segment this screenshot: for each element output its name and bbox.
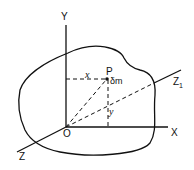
z-axis	[17, 127, 66, 152]
z1-axis-label: Z1	[173, 77, 183, 89]
op-line	[66, 80, 106, 127]
rigid-body-diagram: Y X O Z Z1 P δm x y	[0, 0, 194, 170]
z-axis-label: Z	[19, 152, 25, 162]
z1-subscript: 1	[179, 82, 183, 89]
origin-label: O	[63, 129, 71, 139]
y-axis-label: Y	[61, 12, 68, 22]
body-outline	[19, 46, 155, 155]
x-axis-label: X	[171, 128, 178, 138]
mass-element-label: δm	[110, 77, 123, 86]
point-p	[105, 77, 109, 81]
y-distance-label: y	[109, 107, 113, 117]
x-distance-label: x	[85, 70, 89, 80]
z1-axis-dashed	[66, 83, 154, 127]
diagram-svg	[0, 0, 194, 170]
